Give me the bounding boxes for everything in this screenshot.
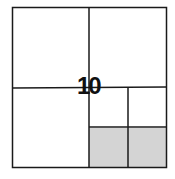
diagram-label: 10 bbox=[77, 74, 100, 98]
